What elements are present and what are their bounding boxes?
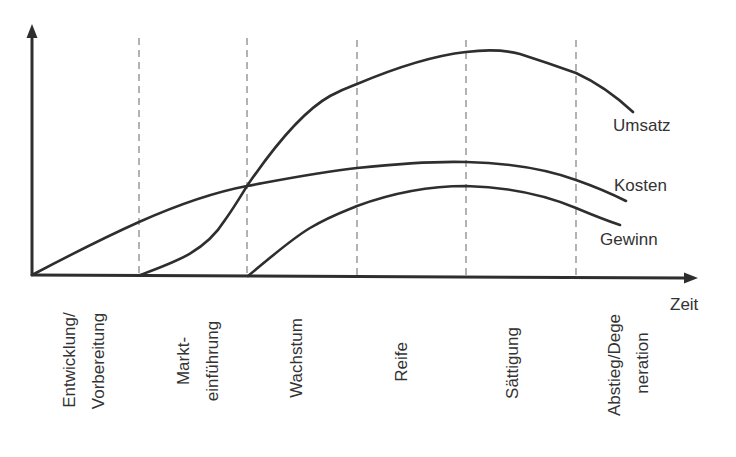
umsatz-label: Umsatz bbox=[613, 116, 671, 135]
curves bbox=[32, 50, 633, 276]
phase-dividers bbox=[139, 38, 576, 276]
umsatz-curve bbox=[140, 50, 633, 275]
series-labels: Umsatz Kosten Gewinn bbox=[600, 116, 671, 249]
phase-label-saettigung: Sättigung bbox=[503, 327, 522, 399]
axes bbox=[27, 24, 699, 284]
gewinn-label: Gewinn bbox=[600, 230, 658, 249]
phase-label-reife: Reife bbox=[392, 342, 411, 382]
x-axis-label: Zeit bbox=[670, 295, 699, 314]
phase-label-wachstum: Wachstum bbox=[287, 318, 306, 398]
x-axis bbox=[31, 275, 686, 278]
y-axis-arrow-icon bbox=[27, 24, 38, 38]
phase-label-entwicklung-line2: Vorbereitung bbox=[89, 313, 108, 409]
x-axis-arrow-icon bbox=[684, 273, 698, 284]
phase-label-markteinfuehrung-line1: Markt- bbox=[174, 337, 193, 385]
gewinn-curve bbox=[248, 186, 620, 276]
phase-label-markteinfuehrung-line2: einführung bbox=[203, 321, 222, 401]
phase-label-abstieg-line2: neration bbox=[633, 332, 652, 393]
product-life-cycle-diagram: Umsatz Kosten Gewinn Zeit Entwicklung/ V… bbox=[0, 0, 736, 457]
kosten-label: Kosten bbox=[614, 176, 667, 195]
phase-label-abstieg-line1: Abstieg/Dege bbox=[605, 314, 624, 416]
phase-labels: Entwicklung/ Vorbereitung Markt- einführ… bbox=[60, 312, 652, 416]
phase-label-entwicklung-line1: Entwicklung/ bbox=[60, 312, 79, 408]
